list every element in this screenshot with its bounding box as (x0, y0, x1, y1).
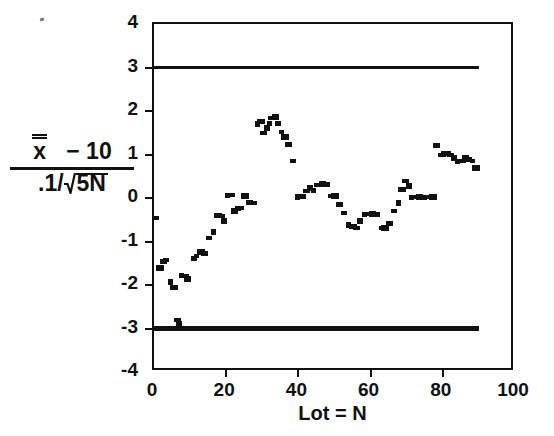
data-point (281, 134, 289, 140)
data-point (324, 182, 330, 187)
data-point (429, 194, 437, 200)
plot-area (152, 22, 513, 370)
x-axis-title: Lot = N (152, 402, 513, 425)
double-bar-x-symbol: x (32, 140, 47, 163)
data-point (239, 206, 244, 210)
data-point (298, 194, 306, 199)
data-point (357, 218, 363, 224)
data-point (374, 212, 380, 217)
data-point (381, 225, 389, 231)
y-axis-tick-label: -4 (104, 359, 138, 381)
data-point (170, 285, 178, 290)
y-axis-tick-label: 3 (104, 55, 138, 77)
data-point (285, 142, 292, 147)
data-point (470, 159, 475, 163)
data-point (163, 258, 169, 262)
y-axis-tick-label: 0 (104, 185, 138, 207)
lower-control-limit (154, 326, 479, 331)
y-axis-tick-label: -2 (104, 272, 138, 294)
x-axis-tick-label: 100 (483, 379, 543, 401)
fraction-bar (10, 167, 134, 170)
y-axis-tick-label: 4 (104, 11, 138, 33)
data-point (396, 200, 401, 206)
data-point (251, 201, 257, 205)
control-chart-figure: x − 10 .1/5N 43210-1-2-3-4020406080100 L… (0, 0, 554, 436)
y-axis-title-denominator: .1/5N (38, 172, 106, 195)
y-axis-tick-label: 2 (104, 98, 138, 120)
x-axis-tick-label: 20 (194, 379, 254, 401)
x-axis-tick (297, 368, 299, 377)
data-point (257, 119, 265, 124)
square-root-icon: 5N (64, 172, 106, 195)
data-point (353, 226, 360, 230)
scan-artifact-speck (40, 17, 45, 21)
data-point (391, 209, 397, 213)
x-axis-tick (370, 368, 372, 377)
double-bar-overline-icon (32, 134, 47, 139)
data-point (472, 165, 480, 171)
x-variable: x (33, 138, 46, 164)
data-point (331, 193, 339, 199)
plot-canvas (154, 24, 511, 368)
data-point (336, 202, 343, 207)
data-point (154, 216, 159, 220)
y-axis-tick (145, 110, 154, 112)
data-point (241, 193, 249, 199)
data-point (227, 193, 235, 197)
y-axis-tick (145, 328, 154, 330)
data-point (275, 121, 281, 126)
data-point (433, 143, 440, 148)
data-point (260, 131, 267, 135)
y-axis-tick (145, 154, 154, 156)
y-axis-tick (145, 241, 154, 243)
data-point (311, 188, 316, 193)
data-point (206, 236, 212, 240)
data-point (341, 211, 347, 215)
y-axis-tick-label: -3 (104, 316, 138, 338)
y-axis-tick (145, 67, 154, 69)
denominator-prefix: .1/ (38, 170, 64, 196)
x-axis-tick (225, 368, 227, 377)
upper-control-limit (154, 66, 479, 69)
vinculum (76, 173, 108, 175)
data-point (184, 276, 191, 282)
data-point (398, 187, 406, 192)
data-point (221, 218, 227, 224)
data-point (201, 251, 208, 256)
x-axis-tick (442, 368, 444, 377)
x-axis-tick-label: 0 (122, 379, 182, 401)
data-point (156, 265, 164, 271)
data-point (176, 321, 182, 327)
y-axis-tick-label: 1 (104, 142, 138, 164)
data-point (406, 183, 412, 189)
data-point (290, 159, 296, 163)
data-point (211, 229, 216, 235)
data-point (267, 121, 272, 126)
x-axis-tick-label: 80 (411, 379, 471, 401)
x-axis-tick-label: 40 (266, 379, 326, 401)
radical-hook-icon (64, 172, 77, 194)
data-point (386, 221, 393, 226)
data-point (272, 114, 279, 120)
x-axis-tick-label: 60 (339, 379, 399, 401)
y-axis-tick-label: -1 (104, 229, 138, 251)
y-axis-tick (145, 197, 154, 199)
y-axis-tick (145, 284, 154, 286)
